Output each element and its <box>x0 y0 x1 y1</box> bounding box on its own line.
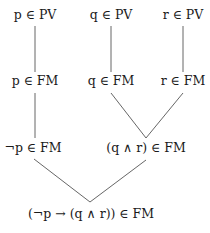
edge-notp-fm-to-impl-fm <box>34 159 90 202</box>
node-r-in-pv: r ∈ PV <box>163 9 204 22</box>
tree-edges <box>0 0 210 233</box>
formation-tree-diagram: p ∈ PV q ∈ PV r ∈ PV p ∈ FM q ∈ FM r ∈ F… <box>0 0 210 233</box>
node-q-in-fm: q ∈ FM <box>88 75 135 88</box>
node-q-and-r-in-fm: (q ∧ r) ∈ FM <box>106 142 186 155</box>
node-not-p-in-fm: ¬p ∈ FM <box>4 142 61 155</box>
node-p-in-pv: p ∈ PV <box>14 9 57 22</box>
node-q-in-pv: q ∈ PV <box>90 9 133 22</box>
edge-r-fm-to-qandr-fm <box>146 93 183 138</box>
edge-qandr-fm-to-impl-fm <box>90 160 146 202</box>
node-implication-in-fm: (¬p → (q ∧ r)) ∈ FM <box>28 208 154 221</box>
edge-q-fm-to-qandr-fm <box>111 93 146 138</box>
node-r-in-fm: r ∈ FM <box>161 75 206 88</box>
node-p-in-fm: p ∈ FM <box>12 75 59 88</box>
